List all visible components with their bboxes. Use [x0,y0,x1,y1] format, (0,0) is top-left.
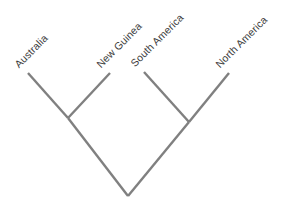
branch-austral-root [68,118,128,196]
branch-south-america [144,72,189,122]
branch-north-america [189,73,229,122]
branch-australia [28,73,68,118]
branch-new-guinea [68,73,110,118]
branch-american-root [128,122,189,196]
branch-group [28,72,229,196]
cladogram-figure: AustraliaNew GuineaSouth AmericaNorth Am… [0,0,295,206]
